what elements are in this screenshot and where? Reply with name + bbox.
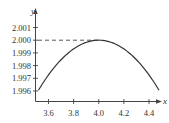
data-curve [38, 40, 159, 90]
y-axis-label: y [30, 6, 35, 16]
x-tick-label: 3.8 [68, 108, 79, 118]
y-tick-label: 2.001 [12, 23, 31, 33]
chart: y x 1.9961.9971.9981.9992.0002.001 3.63.… [0, 0, 169, 123]
y-tick-label: 2.000 [12, 35, 31, 45]
x-axis: x [36, 96, 168, 106]
y-axis: y [30, 6, 38, 102]
x-tick-label: 4.4 [144, 108, 155, 118]
x-axis-label: x [162, 96, 167, 106]
x-axis-arrow-icon [156, 99, 162, 103]
y-ticks: 1.9961.9971.9981.9992.0002.001 [12, 23, 38, 97]
x-tick-label: 3.6 [43, 108, 54, 118]
y-tick-label: 1.996 [12, 86, 31, 96]
y-tick-label: 1.997 [12, 73, 31, 83]
y-tick-label: 1.998 [12, 61, 31, 71]
x-tick-label: 4.2 [119, 108, 130, 118]
x-tick-label: 4.0 [93, 108, 104, 118]
y-tick-label: 1.999 [12, 48, 31, 58]
